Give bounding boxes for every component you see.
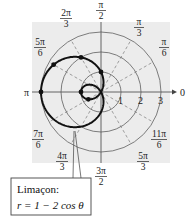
- svg-text:π: π: [162, 37, 167, 47]
- svg-text:11π: 11π: [152, 129, 166, 139]
- svg-text:3: 3: [137, 28, 142, 38]
- ring-label-3: 3: [158, 95, 163, 106]
- svg-text:3: 3: [60, 162, 65, 172]
- polar-graph: 1 2 3 0 π π 2 2π 3 π 3 5π 6 π 6 7π 6 11π…: [0, 0, 192, 222]
- point-theta-pi2: [99, 70, 104, 75]
- svg-text:5π: 5π: [35, 37, 45, 47]
- curve-equation: r = 1 − 2 cos θ: [17, 199, 84, 211]
- curve-name: Limaçon:: [17, 183, 59, 195]
- polar-axis-arrow-icon: [172, 90, 177, 95]
- angle-label-4pi3: 4π 3: [56, 151, 68, 172]
- point-theta-2pi3: [79, 55, 84, 60]
- angle-label-3pi2: 3π 2: [95, 166, 107, 187]
- svg-text:3: 3: [141, 162, 146, 172]
- svg-text:π: π: [137, 17, 142, 27]
- svg-text:2π: 2π: [61, 8, 71, 18]
- svg-text:6: 6: [157, 140, 162, 150]
- angle-label-pi2: π 2: [96, 0, 106, 21]
- curve-label-box: Limaçon: r = 1 − 2 cos θ: [11, 178, 91, 215]
- point-theta-pi6: [86, 97, 91, 102]
- svg-text:3: 3: [64, 19, 69, 29]
- svg-text:6: 6: [38, 48, 43, 58]
- svg-text:2: 2: [99, 177, 104, 187]
- svg-text:π: π: [99, 0, 104, 10]
- angle-label-5pi3: 5π 3: [137, 151, 149, 172]
- angle-label-0: 0: [180, 87, 185, 98]
- ring-label-1: 1: [118, 95, 123, 106]
- ring-label-2: 2: [138, 95, 143, 106]
- point-theta-0: [79, 90, 84, 95]
- svg-text:2: 2: [99, 11, 104, 21]
- svg-text:4π: 4π: [57, 151, 67, 161]
- svg-text:6: 6: [162, 48, 167, 58]
- point-theta-pi: [39, 90, 44, 95]
- svg-text:5π: 5π: [138, 151, 148, 161]
- angle-label-pi: π: [24, 87, 29, 98]
- svg-text:6: 6: [36, 140, 41, 150]
- point-theta-5pi6: [51, 62, 56, 67]
- svg-text:7π: 7π: [33, 129, 43, 139]
- svg-text:3π: 3π: [96, 166, 106, 176]
